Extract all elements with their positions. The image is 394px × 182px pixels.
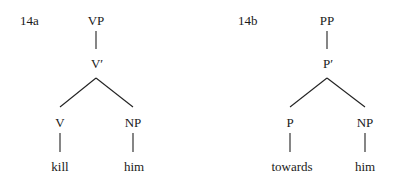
complement-node: NP <box>357 116 374 130</box>
edge-pbar-p <box>290 78 327 107</box>
bar-node: V′ <box>91 57 103 71</box>
root-node: VP <box>88 14 105 28</box>
head-word: towards <box>271 160 312 174</box>
head-node: V <box>55 116 64 130</box>
head-node: P <box>286 116 293 130</box>
edge-vbar-np <box>96 78 133 107</box>
head-word: kill <box>51 160 68 174</box>
tree-lines <box>0 0 394 182</box>
example-label: 14a <box>20 14 39 28</box>
complement-word: him <box>355 160 375 174</box>
bar-node: P′ <box>323 57 333 71</box>
root-node: PP <box>320 14 334 28</box>
complement-word: him <box>124 160 144 174</box>
edge-vbar-v <box>60 78 96 107</box>
edge-pbar-np <box>327 78 365 107</box>
example-label: 14b <box>238 14 258 28</box>
complement-node: NP <box>125 116 142 130</box>
